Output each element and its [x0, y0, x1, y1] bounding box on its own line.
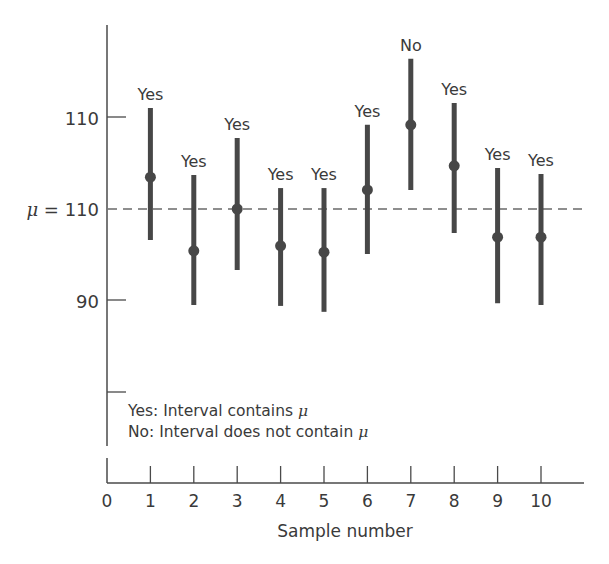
y-tick-label-mu: μ = 110	[26, 199, 99, 220]
interval-annotation: Yes	[267, 165, 294, 184]
interval-3: Yes	[223, 115, 250, 270]
interval-annotation: Yes	[484, 145, 511, 164]
mu-symbol: μ	[26, 199, 38, 220]
y-tick-label-90: 90	[76, 291, 99, 312]
x-tick-label: 1	[145, 491, 156, 511]
x-axis-label: Sample number	[277, 521, 413, 541]
sample-mean-dot	[492, 232, 503, 243]
interval-6: Yes	[353, 102, 380, 254]
y-tick-label-top: 110	[65, 108, 99, 129]
interval-7: No	[400, 36, 422, 190]
interval-annotation: Yes	[527, 151, 554, 170]
interval-annotation: Yes	[353, 102, 380, 121]
interval-annotation: Yes	[223, 115, 250, 134]
sample-mean-dot	[232, 204, 243, 215]
legend-no: No: Interval does not contain μ	[128, 423, 368, 441]
interval-10: Yes	[527, 151, 554, 305]
sample-mean-dot	[449, 160, 460, 171]
x-tick-label: 8	[449, 491, 460, 511]
mu-symbol: μ	[298, 402, 308, 420]
confidence-interval-chart: 110 90 μ = 110 YesYesYesYesYesYesNoYesYe…	[0, 0, 609, 564]
interval-annotation: Yes	[440, 80, 467, 99]
interval-annotation: Yes	[180, 152, 207, 171]
sample-mean-dot	[536, 232, 547, 243]
x-tick-label: 7	[405, 491, 416, 511]
sample-mean-dot	[362, 184, 373, 195]
x-tick-label: 4	[275, 491, 286, 511]
sample-mean-dot	[319, 247, 330, 258]
x-tick-label: 0	[102, 491, 113, 511]
mu-value: = 110	[38, 199, 99, 220]
interval-2: Yes	[180, 152, 207, 305]
x-tick-label: 5	[319, 491, 330, 511]
legend-yes-text: Yes: Interval contains	[127, 402, 298, 420]
interval-4: Yes	[267, 165, 294, 306]
x-tick-label: 10	[530, 491, 552, 511]
interval-1: Yes	[136, 85, 163, 240]
x-tick-label: 2	[188, 491, 199, 511]
interval-8: Yes	[440, 80, 467, 233]
sample-mean-dot	[275, 240, 286, 251]
x-tick-label: 3	[232, 491, 243, 511]
sample-mean-dot	[145, 172, 156, 183]
interval-annotation: Yes	[310, 165, 337, 184]
interval-5: Yes	[310, 165, 337, 312]
x-ticks: 012345678910	[102, 466, 552, 511]
interval-annotation: Yes	[136, 85, 163, 104]
interval-9: Yes	[484, 145, 511, 303]
legend-yes: Yes: Interval contains μ	[127, 402, 308, 420]
x-tick-label: 9	[492, 491, 503, 511]
x-tick-label: 6	[362, 491, 373, 511]
sample-mean-dot	[188, 245, 199, 256]
intervals-group: YesYesYesYesYesYesNoYesYesYes	[136, 36, 553, 312]
sample-mean-dot	[405, 119, 416, 130]
legend-no-text: No: Interval does not contain	[128, 423, 358, 441]
interval-annotation: No	[400, 36, 422, 55]
y-ticks	[107, 117, 126, 392]
mu-symbol: μ	[358, 423, 368, 441]
